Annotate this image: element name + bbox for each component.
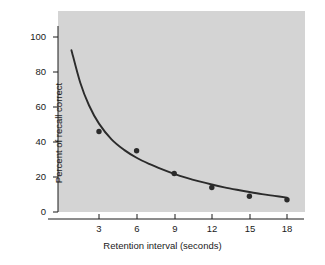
- x-axis-ticks: [99, 214, 287, 219]
- x-tick-label-3: 3: [96, 224, 101, 234]
- y-tick-label-20: 20: [22, 172, 46, 182]
- x-axis-label: Retention interval (seconds): [0, 240, 325, 251]
- x-tick-label-12: 12: [207, 224, 218, 234]
- data-point: [209, 185, 214, 190]
- y-tick-label-40: 40: [22, 137, 46, 147]
- y-axis-label: Percent of recall correct: [53, 82, 64, 182]
- plot-drawing-area: [0, 0, 325, 265]
- data-point: [134, 148, 139, 153]
- x-tick-label-15: 15: [245, 224, 256, 234]
- x-tick-label-9: 9: [172, 224, 177, 234]
- data-point: [172, 171, 177, 176]
- data-point: [284, 197, 289, 202]
- data-point-group: [96, 129, 289, 203]
- data-point: [247, 194, 252, 199]
- y-tick-label-80: 80: [22, 67, 46, 77]
- y-tick-label-0: 0: [22, 207, 46, 217]
- chart-figure: 100 80 60 40 20 0 3 6 9 12 15 18 Percent…: [0, 0, 325, 265]
- fitted-forgetting-curve: [71, 50, 287, 198]
- x-tick-label-18: 18: [282, 224, 293, 234]
- y-tick-label-60: 60: [22, 102, 46, 112]
- data-point: [96, 129, 101, 134]
- y-tick-label-100: 100: [22, 32, 46, 42]
- x-tick-label-6: 6: [134, 224, 139, 234]
